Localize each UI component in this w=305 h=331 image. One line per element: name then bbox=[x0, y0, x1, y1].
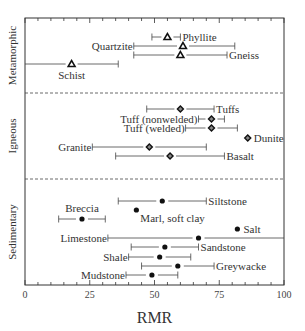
group-label-metamorphic: Metamorphic bbox=[6, 26, 18, 85]
circle-marker bbox=[149, 272, 154, 277]
triangle-marker bbox=[68, 61, 75, 67]
diamond-marker bbox=[146, 144, 152, 150]
rock-label: Marl, soft clay bbox=[140, 212, 205, 224]
rmr-range-chart: 0255075100RMRMetamorphicPhylliteQuartzit… bbox=[0, 0, 305, 331]
group-label-igneous: Igneous bbox=[6, 119, 18, 154]
circle-marker bbox=[160, 198, 165, 203]
group-label-sedimentary: Sedimentary bbox=[6, 204, 18, 260]
diamond-marker bbox=[167, 153, 173, 159]
diamond-marker bbox=[177, 106, 183, 112]
rock-label: Mudstone bbox=[81, 269, 125, 281]
rock-label: Basalt bbox=[226, 150, 254, 162]
circle-marker bbox=[79, 216, 84, 221]
rock-label: Siltstone bbox=[208, 195, 247, 207]
rock-label: Shale bbox=[103, 251, 128, 263]
rock-label: Granite bbox=[58, 141, 91, 153]
circle-marker bbox=[157, 254, 162, 259]
x-tick-label: 50 bbox=[150, 289, 160, 300]
triangle-marker bbox=[179, 43, 186, 49]
circle-marker bbox=[175, 263, 180, 268]
rock-label: Breccia bbox=[65, 202, 99, 214]
rock-label: Schist bbox=[58, 69, 85, 81]
circle-marker bbox=[134, 207, 139, 212]
triangle-marker bbox=[164, 34, 171, 40]
diamond-marker bbox=[245, 135, 251, 141]
circle-marker bbox=[162, 244, 167, 249]
diamond-marker bbox=[208, 125, 214, 131]
triangle-marker bbox=[177, 52, 184, 58]
rock-label: Greywacke bbox=[216, 260, 266, 272]
x-tick-label: 75 bbox=[214, 289, 224, 300]
rock-label: Quartzite bbox=[92, 40, 133, 52]
rock-label: Sandstone bbox=[201, 241, 246, 253]
circle-marker bbox=[196, 235, 201, 240]
circle-marker bbox=[235, 226, 240, 231]
rock-label: Tuffs bbox=[216, 103, 239, 115]
rock-label: Gneiss bbox=[229, 49, 259, 61]
diamond-marker bbox=[208, 116, 214, 122]
rock-label: Phyllite bbox=[182, 31, 216, 43]
x-tick-label: 100 bbox=[277, 289, 292, 300]
rock-label: Salt bbox=[243, 223, 260, 235]
rock-label: Limestone bbox=[60, 232, 107, 244]
x-tick-label: 25 bbox=[85, 289, 95, 300]
x-tick-label: 0 bbox=[23, 289, 28, 300]
x-axis-label: RMR bbox=[137, 309, 173, 326]
rock-label: Dunite bbox=[254, 132, 284, 144]
rock-label: Tuff (welded) bbox=[124, 122, 185, 135]
